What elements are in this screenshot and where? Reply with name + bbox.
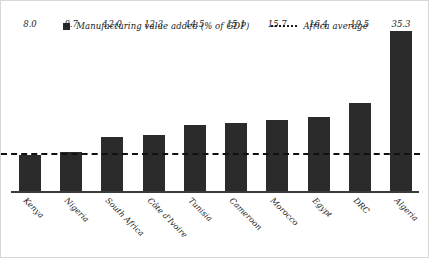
bar[interactable]: 15.1 [225,123,247,191]
bar-value-label: 12.3 [144,19,163,29]
bar-value-label: 35.3 [392,19,411,29]
bar-slot: 14.5 [184,31,206,191]
bar-value-label: 19.5 [350,19,369,29]
bar[interactable]: 35.3 [390,31,412,191]
category-slot: Côte d'Ivoire [143,192,165,252]
bar-group: 8.08.712.012.314.515.115.716.419.535.3 [11,31,420,191]
bar-slot: 35.3 [390,31,412,191]
category-label: Nigeria [63,196,91,224]
category-label: Morocco [269,196,300,227]
bar[interactable]: 12.3 [143,135,165,191]
category-slot: DRC [349,192,371,252]
bar-slot: 15.7 [266,31,288,191]
category-slot: Morocco [266,192,288,252]
category-slot: Algeria [390,192,412,252]
bar[interactable]: 8.7 [60,152,82,191]
category-slot: Egypt [308,192,330,252]
category-slot: Nigeria [60,192,82,252]
bar-slot: 16.4 [308,31,330,191]
bar-slot: 12.3 [143,31,165,191]
chart-figure: Manufacturing value added (% of GDP) Afr… [0,0,429,258]
bar-slot: 19.5 [349,31,371,191]
category-slot: South Africa [101,192,123,252]
bar-slot: 8.0 [19,31,41,191]
bar-value-label: 15.7 [268,19,287,29]
bar[interactable]: 8.0 [19,155,41,191]
category-label: Tunisia [187,196,214,223]
plot-area: 8.08.712.012.314.515.115.716.419.535.3 [11,31,420,191]
category-label: Algeria [393,196,420,223]
bar-value-label: 8.0 [23,19,37,29]
category-label: South Africa [104,196,146,238]
category-label: Côte d'Ivoire [145,196,188,239]
bar-value-label: 16.4 [309,19,328,29]
bar-slot: 15.1 [225,31,247,191]
category-slot: Kenya [19,192,41,252]
bar[interactable]: 19.5 [349,103,371,191]
bar-value-label: 15.1 [227,19,246,29]
category-label: Kenya [22,196,46,220]
category-label: Egypt [310,196,333,219]
africa-average-line [1,153,420,155]
bar-slot: 12.0 [101,31,123,191]
category-slot: Tunisia [184,192,206,252]
bar-value-label: 14.5 [185,19,204,29]
bar[interactable]: 12.0 [101,137,123,191]
bar-slot: 8.7 [60,31,82,191]
x-axis-labels: KenyaNigeriaSouth AfricaCôte d'IvoireTun… [11,192,420,252]
category-label: DRC [351,196,370,215]
bar-value-label: 12.0 [103,19,122,29]
bar-value-label: 8.7 [64,19,78,29]
category-label: Cameroon [228,196,264,232]
bar[interactable]: 15.7 [266,120,288,191]
category-slot: Cameroon [225,192,247,252]
bar[interactable]: 14.5 [184,125,206,191]
